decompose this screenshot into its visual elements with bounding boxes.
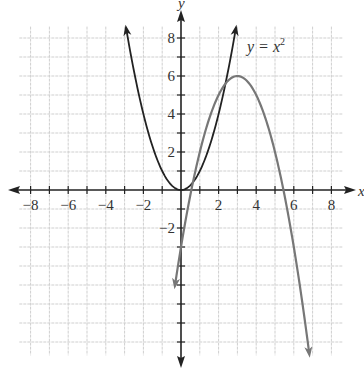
x-tick-label: 2 xyxy=(215,197,223,213)
parabola-downward xyxy=(175,76,308,350)
x-tick-label: −8 xyxy=(23,197,39,213)
y-tick-label: 6 xyxy=(168,68,176,84)
y-axis-label: y xyxy=(176,0,185,11)
equation-label: y = x2 xyxy=(245,36,285,56)
x-tick-label: −6 xyxy=(60,197,76,213)
x-tick-label: 6 xyxy=(290,197,298,213)
x-tick-label: 4 xyxy=(252,197,260,213)
y-tick-label: −2 xyxy=(159,220,175,236)
x-axis-label: x xyxy=(357,183,364,199)
curves xyxy=(123,25,312,358)
x-tick-label: 8 xyxy=(328,197,336,213)
x-tick-label: −4 xyxy=(98,197,114,213)
equation-superscript: 2 xyxy=(280,36,285,47)
y-tick-label: 8 xyxy=(168,30,176,46)
x-tick-label: −2 xyxy=(135,197,151,213)
y-tick-label: 2 xyxy=(168,144,176,160)
equation-text: y = x xyxy=(245,38,280,56)
coordinate-plane: −8−6−4−22468−22468 y x y = x2 xyxy=(0,0,364,372)
y-tick-label: 4 xyxy=(168,106,176,122)
